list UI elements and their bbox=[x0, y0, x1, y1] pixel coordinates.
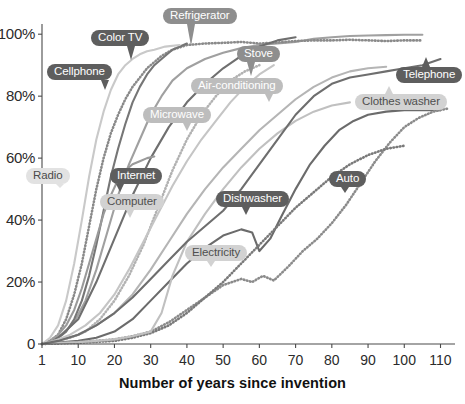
diffusion-of-innovation-chart: 020%40%60%80%100% 1102030405060708090100… bbox=[0, 0, 465, 404]
y-tick-label-20: 20% bbox=[6, 273, 35, 290]
series-label-clothes-washer: Clothes washer bbox=[355, 94, 447, 110]
series-label-radio: Radio bbox=[26, 168, 70, 184]
series-label-color-tv: Color TV bbox=[91, 30, 149, 46]
series-label-microwave: Microwave bbox=[143, 107, 211, 123]
label-pointer bbox=[341, 187, 349, 193]
x-axis-title: Number of years since invention bbox=[0, 375, 465, 391]
label-pointer bbox=[242, 207, 250, 215]
x-tick-label-50: 50 bbox=[203, 352, 243, 368]
x-tick-label-20: 20 bbox=[94, 352, 134, 368]
series-label-air-conditioning: Air-conditioning bbox=[191, 78, 283, 94]
label-pointer bbox=[385, 86, 393, 94]
series-line-dishwasher bbox=[42, 110, 441, 344]
y-tick-label-80: 80% bbox=[6, 87, 35, 104]
series-label-telephone: Telephone bbox=[396, 67, 462, 83]
label-pointer bbox=[183, 123, 191, 131]
series-label-computer: Computer bbox=[100, 194, 164, 210]
series-label-electricity: Electricity bbox=[185, 245, 247, 261]
series-label-internet: Internet bbox=[110, 168, 162, 184]
series-label-stove: Stove bbox=[237, 46, 280, 62]
label-pointer bbox=[101, 80, 109, 90]
series-label-cellphone: Cellphone bbox=[47, 64, 112, 80]
x-tick-label-10: 10 bbox=[58, 352, 98, 368]
y-tick-label-0: 0 bbox=[27, 335, 35, 352]
x-tick-label-70: 70 bbox=[276, 352, 316, 368]
series-label-dishwasher: Dishwasher bbox=[216, 191, 289, 207]
x-tick-label-1: 1 bbox=[22, 352, 62, 368]
y-tick-label-100: 100% bbox=[0, 25, 35, 42]
series-label-auto: Auto bbox=[329, 171, 366, 187]
series-label-refrigerator: Refrigerator bbox=[163, 8, 237, 24]
y-tick-label-60: 60% bbox=[6, 149, 35, 166]
series-line-clothes-washer bbox=[42, 102, 350, 344]
x-tick-label-60: 60 bbox=[239, 352, 279, 368]
x-tick-label-80: 80 bbox=[312, 352, 352, 368]
label-pointer bbox=[126, 210, 134, 218]
x-tick-label-30: 30 bbox=[131, 352, 171, 368]
label-pointer bbox=[56, 184, 64, 188]
x-tick-label-40: 40 bbox=[167, 352, 207, 368]
label-pointer bbox=[116, 184, 124, 192]
label-pointer bbox=[265, 94, 273, 102]
y-tick-label-40: 40% bbox=[6, 211, 35, 228]
label-pointer bbox=[187, 24, 195, 46]
x-tick-label-100: 100 bbox=[384, 352, 424, 368]
label-pointer bbox=[207, 261, 215, 267]
x-tick-label-90: 90 bbox=[348, 352, 388, 368]
x-tick-label-110: 110 bbox=[421, 352, 461, 368]
